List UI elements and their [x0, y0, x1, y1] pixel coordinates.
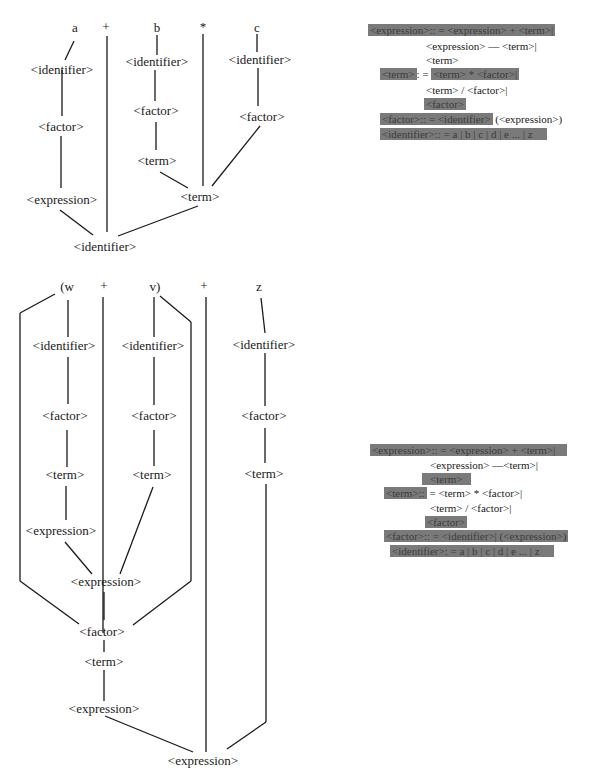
node-w-identifier: <identifier>	[33, 339, 95, 353]
token-open-paren-w: (w	[60, 280, 74, 294]
node-w-term: <term>	[46, 468, 85, 482]
node-z-factor: <factor>	[242, 409, 287, 423]
highlight: <term>::	[384, 487, 427, 499]
token-z: z	[256, 280, 262, 294]
parse-tree-2: (w + v) + z <identifier> <factor> <term>…	[0, 0, 593, 775]
node-z-identifier: <identifier>	[233, 338, 295, 352]
grammar2-line-8: <identifier>: = a | b | c | d | e ... | …	[390, 545, 554, 558]
grammar2-line-6: <factor>	[425, 516, 467, 529]
node-v-factor: <factor>	[132, 409, 177, 423]
node-w-expression: <expression>	[26, 524, 96, 538]
grammar2-line-7: <factor>:: = <identifier>| (<expression>…	[384, 530, 568, 543]
highlight: <factor>	[425, 516, 467, 528]
node-w-factor: <factor>	[43, 409, 88, 423]
grammar2-line-5: <term> / <factor>|	[430, 502, 511, 515]
node-paren-term: <term>	[85, 655, 124, 669]
highlight: <term>	[422, 473, 471, 485]
node-paren-expression: <expression>	[69, 702, 139, 716]
grammar2-line-2: <expression> —<term>|	[430, 459, 538, 472]
node-z-term: <term>	[245, 467, 284, 481]
grammar2-line-4: <term>:: = <term> * <factor>|	[384, 487, 522, 500]
highlight: <factor>:: = <identifier>| (<expression>…	[384, 530, 568, 542]
node-inner-expression: <expression>	[71, 575, 141, 589]
highlight: <identifier>: = a | b | c | d | e ... | …	[390, 545, 554, 557]
node-root-expression: <expression>	[168, 754, 238, 768]
grammar2-line-3: <term>	[422, 473, 471, 486]
node-v-identifier: <identifier>	[122, 339, 184, 353]
token-plus-2: +	[200, 279, 207, 293]
grammar2-line-1: <expression>:: = <expression> + <term>|	[370, 444, 567, 457]
node-paren-factor: <factor>	[80, 625, 125, 639]
highlight: <expression>:: = <expression> + <term>|	[370, 444, 567, 456]
grammar-rules-2: <expression>:: = <expression> + <term>| …	[370, 444, 590, 564]
node-v-term: <term>	[133, 468, 172, 482]
token-v-close-paren: v)	[150, 280, 161, 294]
token-plus-1: +	[100, 279, 107, 293]
